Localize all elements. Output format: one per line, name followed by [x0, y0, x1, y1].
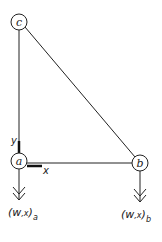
node-c: c: [11, 14, 27, 30]
node-b: b: [132, 155, 148, 171]
load-arrow-a: [13, 169, 25, 200]
node-a-label: a: [16, 155, 23, 168]
svg-text:(w,x)a: (w,x)a: [8, 206, 38, 222]
member-c-b: [25, 27, 135, 157]
y-axis-label: y: [10, 135, 18, 146]
truss-diagram: y x c a b (w,x)a (w,x)b: [0, 0, 162, 242]
load-label-a: (w,x)a: [8, 206, 38, 222]
load-label-b: (w,x)b: [121, 208, 151, 224]
load-arrow-b: [134, 171, 146, 202]
x-axis-label: x: [42, 165, 49, 176]
node-a: a: [11, 153, 27, 169]
node-b-label: b: [136, 157, 143, 170]
node-c-label: c: [16, 16, 22, 29]
svg-text:(w,x)b: (w,x)b: [121, 208, 151, 224]
